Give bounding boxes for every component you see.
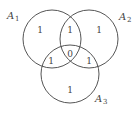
region-a1-a3: 1 bbox=[48, 56, 54, 66]
region-a2-a3: 1 bbox=[86, 56, 92, 66]
set-a2-label: A 2 bbox=[118, 11, 131, 24]
region-a2-only: 1 bbox=[96, 25, 102, 35]
set-a3-label: A 3 bbox=[94, 93, 107, 106]
region-a1-a2-a3: 0 bbox=[67, 49, 73, 59]
region-a1-a2: 1 bbox=[67, 25, 73, 35]
svg-text:A: A bbox=[118, 11, 126, 22]
svg-text:A: A bbox=[94, 93, 102, 104]
svg-text:3: 3 bbox=[103, 98, 107, 106]
svg-text:A: A bbox=[6, 10, 14, 21]
venn-diagram: A 1 A 2 A 3 1 1 1 1 0 1 1 bbox=[0, 0, 138, 113]
region-a1-only: 1 bbox=[37, 25, 43, 35]
set-a1-label: A 1 bbox=[6, 10, 19, 23]
svg-text:2: 2 bbox=[127, 16, 131, 24]
svg-text:1: 1 bbox=[15, 15, 19, 23]
region-a3-only: 1 bbox=[67, 85, 73, 95]
